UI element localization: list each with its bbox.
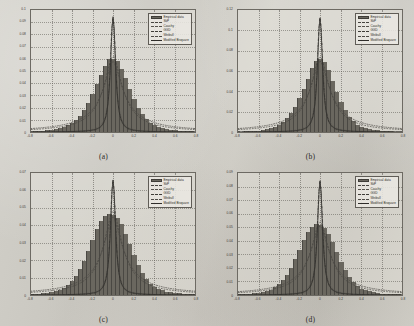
x-tick-label: 0.4 (359, 297, 364, 301)
legend-key-icon (358, 16, 369, 19)
legend-label: Modified Bisquare (163, 39, 189, 42)
x-tick-label: -0.6 (48, 134, 54, 138)
x-tick-label: -0.2 (89, 134, 95, 138)
y-tick-label: 0.06 (226, 69, 233, 73)
x-tick-label: 0 (112, 134, 114, 138)
x-tick-label: 0.4 (152, 297, 157, 301)
chart-panel-c: 00.010.020.030.040.050.060.07 Empirical … (0, 163, 207, 326)
y-tick-label: 0.01 (226, 280, 233, 284)
legend-key-icon (358, 192, 369, 195)
figure-panel-grid: 00.010.020.030.040.050.060.070.080.090.1… (0, 0, 414, 326)
y-axis-labels-d: 00.010.020.030.040.050.060.070.080.09 (207, 172, 236, 296)
y-tick-label: 0.08 (226, 184, 233, 188)
x-tick-label: -0.2 (89, 297, 95, 301)
legend-label: Modified Bisquare (370, 39, 396, 42)
y-tick-label: 0.07 (226, 198, 233, 202)
legend-item: Empirical data (151, 15, 189, 19)
plot-area-c: Empirical dataSkPCauchyGGDWeibullModifie… (30, 172, 196, 296)
x-tick-label: -0.4 (276, 134, 282, 138)
x-axis-labels-d: -0.8-0.6-0.4-0.200.20.40.60.8 (237, 297, 403, 309)
x-tick-label: -0.6 (255, 134, 261, 138)
legend-swatch (151, 16, 162, 19)
legend-line (151, 40, 162, 41)
legend-key-icon (151, 197, 162, 200)
legend-line (151, 194, 162, 195)
legend-line (151, 199, 162, 200)
legend-key-icon (358, 197, 369, 200)
legend-key-icon (358, 25, 369, 28)
x-tick-label: 0.2 (131, 134, 136, 138)
y-tick-label: 0.12 (226, 7, 233, 11)
y-tick-label: 0.01 (19, 276, 26, 280)
legend-label: Modified Bisquare (163, 202, 189, 205)
legend-label: Weibull (163, 197, 173, 200)
legend-item: Modified Bisquare (358, 201, 396, 205)
x-axis-labels-c: -0.8-0.6-0.4-0.200.20.40.60.8 (30, 297, 196, 309)
legend-line (358, 203, 369, 204)
legend-line (358, 26, 369, 27)
legend-key-icon (358, 34, 369, 37)
legend-key-icon (358, 29, 369, 32)
y-tick-label: 0.08 (226, 48, 233, 52)
legend-line (358, 22, 369, 23)
y-tick-label: 0.03 (19, 241, 26, 245)
legend-swatch (151, 179, 162, 182)
x-tick-label: -0.4 (276, 297, 282, 301)
y-axis-labels-b: 00.020.040.060.080.10.12 (207, 9, 236, 133)
x-axis-labels-b: -0.8-0.6-0.4-0.200.20.40.60.8 (237, 134, 403, 146)
curve-weibull (31, 61, 195, 128)
x-tick-label: -0.8 (27, 134, 33, 138)
plot-area-d: Empirical dataSkPCauchyGGDWeibullModifie… (237, 172, 403, 296)
chart-panel-d: 00.010.020.030.040.050.060.070.080.09 Em… (207, 163, 414, 326)
y-tick-label: 0.07 (19, 44, 26, 48)
legend-swatch (358, 179, 369, 182)
y-tick-label: 0.04 (226, 90, 233, 94)
x-tick-label: -0.2 (296, 297, 302, 301)
y-tick-label: 0.02 (226, 110, 233, 114)
legend-key-icon (151, 25, 162, 28)
legend-swatch (358, 16, 369, 19)
plot-area-a: Empirical dataSkPCauchyGGDWeibullModifie… (30, 9, 196, 133)
legend-line (151, 203, 162, 204)
legend-key-icon (151, 183, 162, 186)
legend-label: Weibull (163, 34, 173, 37)
legend-key-icon (151, 179, 162, 182)
legend-key-icon (151, 20, 162, 23)
y-tick-label: 0.06 (19, 57, 26, 61)
legend-key-icon (358, 188, 369, 191)
y-tick-label: 0.04 (19, 223, 26, 227)
y-tick-label: 0.08 (19, 32, 26, 36)
legend-key-icon (151, 16, 162, 19)
x-tick-label: 0.6 (380, 297, 385, 301)
panel-caption-c: (c) (0, 315, 207, 324)
legend-key-icon (151, 38, 162, 41)
legend-line (358, 40, 369, 41)
x-tick-label: 0 (112, 297, 114, 301)
panel-caption-d: (d) (207, 315, 414, 324)
y-tick-label: 0.1 (21, 7, 26, 11)
x-tick-label: -0.6 (255, 297, 261, 301)
x-tick-label: 0.4 (359, 134, 364, 138)
y-tick-label: 0.01 (19, 119, 26, 123)
x-tick-label: 0.8 (194, 134, 199, 138)
x-tick-label: 0 (319, 134, 321, 138)
x-tick-label: 0.8 (401, 134, 406, 138)
x-axis-labels-a: -0.8-0.6-0.4-0.200.20.40.60.8 (30, 134, 196, 146)
legend-key-icon (358, 183, 369, 186)
y-tick-label: 0.06 (226, 211, 233, 215)
y-tick-label: 0.02 (19, 106, 26, 110)
legend-item: Modified Bisquare (358, 38, 396, 42)
x-tick-label: -0.6 (48, 297, 54, 301)
legend-item: Modified Bisquare (151, 201, 189, 205)
legend-key-icon (358, 201, 369, 204)
legend-line (151, 26, 162, 27)
curve-weibull (238, 61, 402, 129)
legend-line (151, 36, 162, 37)
legend-label: Weibull (370, 197, 380, 200)
legend-b: Empirical dataSkPCauchyGGDWeibullModifie… (355, 13, 399, 45)
curve-skp (238, 222, 402, 293)
y-tick-label: 0.05 (19, 205, 26, 209)
curve-weibull (31, 217, 195, 292)
y-tick-label: 0.03 (19, 94, 26, 98)
x-tick-label: -0.8 (234, 134, 240, 138)
